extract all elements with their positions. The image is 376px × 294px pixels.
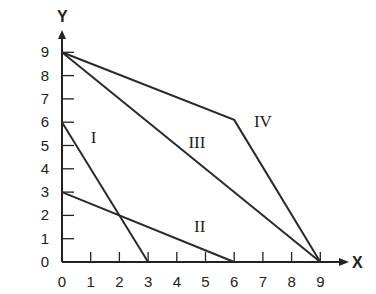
x-tick-label: 3 [144,273,152,290]
x-tick-label: 9 [316,273,324,290]
series-label-i: I [91,128,97,147]
x-tick-label: 6 [230,273,238,290]
y-tick-label: 0 [41,253,49,270]
x-axis-label: X [352,254,363,271]
series-label-iii: III [188,133,205,152]
series-line-ii [62,192,234,262]
y-tick-label: 3 [41,183,49,200]
y-tick-label: 1 [41,230,49,247]
y-tick-label: 2 [41,206,49,223]
y-tick-label: 7 [41,90,49,107]
ticks: 01234567890123456789 [41,43,325,290]
y-tick-label: 9 [41,43,49,60]
x-tick-label: 2 [115,273,123,290]
axes: Y X [57,8,363,271]
series-lines [62,52,320,262]
series-line-i [62,122,148,262]
series-line-iii [62,52,320,262]
y-tick-label: 8 [41,67,49,84]
y-tick-label: 6 [41,113,49,130]
x-tick-label: 1 [87,273,95,290]
x-tick-label: 5 [201,273,209,290]
x-axis-arrow-icon [339,258,349,266]
y-axis-arrow-icon [58,30,66,39]
y-axis-label: Y [57,8,68,25]
series-label-ii: II [194,217,206,236]
y-tick-label: 4 [41,160,49,177]
x-tick-label: 4 [173,273,181,290]
series-labels: IIIIIIIV [91,112,273,236]
series-label-iv: IV [254,112,273,131]
chart: Y X 01234567890123456789 IIIIIIIV [0,0,376,294]
x-tick-label: 8 [287,273,295,290]
x-tick-label: 0 [58,273,66,290]
y-tick-label: 5 [41,137,49,154]
x-tick-label: 7 [259,273,267,290]
